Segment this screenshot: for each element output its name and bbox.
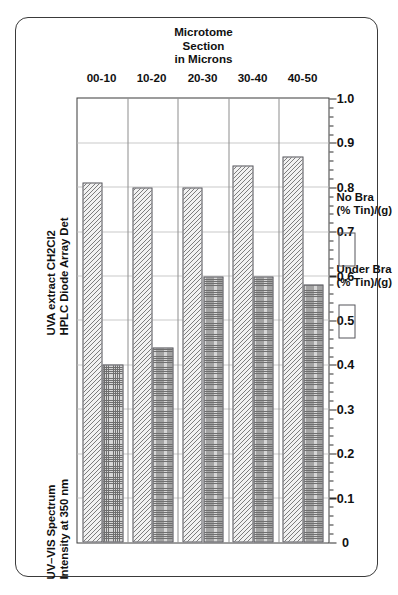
axis-tick-minor — [330, 489, 334, 490]
axis-tick-minor — [330, 515, 334, 516]
axis-tick-minor — [330, 533, 334, 534]
value-tick-label: 0.1 — [337, 491, 355, 505]
axis-tick-minor — [330, 435, 334, 436]
category-label-30-40: 30-40 — [237, 71, 267, 84]
bar-20-30-no-bra — [203, 276, 224, 542]
axis-tick-minor — [330, 267, 334, 268]
axis-tick-minor — [330, 116, 334, 117]
value-tick-label: 0.4 — [337, 357, 355, 371]
value-tick-label: 0.2 — [337, 446, 355, 460]
axis-tick-minor — [330, 506, 334, 507]
axis-tick-minor — [330, 471, 334, 472]
axis-tick-major — [330, 497, 337, 498]
category-label-10-20: 10-20 — [137, 71, 167, 84]
category-separator — [278, 98, 279, 542]
figure-caption-left: UV–VIS Spectrum Intensity at 350 nm — [45, 478, 72, 579]
figure-caption-right: UVA extract CH2Cl2 HPLC Diode Array Det — [45, 217, 72, 335]
axis-tick-major — [330, 409, 337, 410]
axis-tick-minor — [330, 302, 334, 303]
category-label-00-10: 00-10 — [87, 71, 117, 84]
category-separator — [178, 98, 179, 542]
axis-tick-minor — [330, 284, 334, 285]
axis-tick-major — [330, 320, 337, 321]
axis-tick-minor — [330, 444, 334, 445]
axis-tick-minor — [330, 400, 334, 401]
legend-hatched-swatch — [339, 304, 356, 338]
axis-tick-minor — [330, 382, 334, 383]
axis-tick-minor — [330, 373, 334, 374]
bar-10-20-no-bra — [153, 347, 174, 542]
axis-tick-major — [330, 142, 337, 143]
plot-area — [77, 97, 330, 543]
axis-tick-minor — [330, 125, 334, 126]
axis-tick-minor — [330, 160, 334, 161]
chart-legend: Under Bra (% Tin)/(g)No Bra (% Tin)/(g) — [339, 88, 391, 338]
axis-tick-minor — [330, 134, 334, 135]
axis-tick-minor — [330, 329, 334, 330]
axis-tick-major — [330, 542, 337, 543]
axis-tick-minor — [330, 480, 334, 481]
gridline — [78, 142, 329, 143]
axis-tick-minor — [330, 249, 334, 250]
axis-tick-minor — [330, 178, 334, 179]
bar-10-20-under-bra — [132, 187, 153, 542]
category-label-40-50: 40-50 — [288, 71, 318, 84]
category-separator — [128, 98, 129, 542]
bar-30-40-no-bra — [253, 276, 274, 542]
legend-label-no-bra: No Bra (% Tin)/(g) — [337, 190, 392, 216]
axis-tick-minor — [330, 169, 334, 170]
axis-tick-minor — [330, 418, 334, 419]
bar-40-50-under-bra — [283, 156, 304, 542]
axis-tick-minor — [330, 391, 334, 392]
axis-tick-minor — [330, 151, 334, 152]
category-separator — [228, 98, 229, 542]
axis-tick-major — [330, 275, 337, 276]
value-tick-label: 0 — [342, 535, 349, 549]
axis-tick-minor — [330, 258, 334, 259]
axis-tick-major — [330, 187, 337, 188]
axis-tick-minor — [330, 107, 334, 108]
axis-tick-minor — [330, 524, 334, 525]
axis-tick-minor — [330, 196, 334, 197]
axis-tick-minor — [330, 347, 334, 348]
axis-tick-minor — [330, 205, 334, 206]
bar-00-10-no-bra — [103, 364, 124, 542]
axis-tick-minor — [330, 222, 334, 223]
axis-tick-major — [330, 453, 337, 454]
axis-tick-major — [330, 231, 337, 232]
axis-tick-minor — [330, 240, 334, 241]
axis-tick-minor — [330, 356, 334, 357]
axis-tick-minor — [330, 427, 334, 428]
figure-border: UV–VIS Spectrum Intensity at 350 nm UVA … — [15, 17, 378, 577]
axis-tick-minor — [330, 338, 334, 339]
rotated-figure-canvas: UV–VIS Spectrum Intensity at 350 nm UVA … — [43, 45, 388, 585]
bar-40-50-no-bra — [303, 284, 324, 542]
axis-tick-minor — [330, 311, 334, 312]
category-label-20-30: 20-30 — [187, 71, 217, 84]
bar-30-40-under-bra — [233, 165, 254, 542]
axis-tick-major — [330, 98, 337, 99]
value-tick-label: 0.3 — [337, 402, 355, 416]
bar-20-30-under-bra — [182, 187, 203, 542]
category-axis-title: Microtome Section in Microns — [174, 25, 233, 66]
legend-dotted-swatch — [339, 232, 356, 266]
axis-tick-major — [330, 364, 337, 365]
axis-tick-minor — [330, 213, 334, 214]
axis-tick-minor — [330, 293, 334, 294]
axis-tick-minor — [330, 462, 334, 463]
bar-00-10-under-bra — [82, 182, 103, 542]
